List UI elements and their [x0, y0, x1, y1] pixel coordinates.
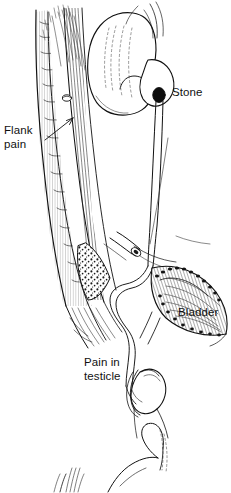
label-flank-pain: Flank pain [4, 124, 33, 151]
stone-marker [153, 88, 165, 103]
anatomy-line-drawing [0, 0, 231, 493]
ureter-structure [110, 101, 210, 390]
label-pain-in-testicle: Pain in testicle [84, 356, 121, 383]
label-stone: Stone [172, 86, 203, 100]
medical-illustration-figure: Flank pain Stone Bladder Pain in testicl… [0, 0, 231, 493]
partial-figure-below [54, 423, 167, 492]
cut-ureter-stump [104, 232, 142, 260]
label-bladder: Bladder [178, 306, 218, 320]
bladder-structure [140, 258, 231, 346]
